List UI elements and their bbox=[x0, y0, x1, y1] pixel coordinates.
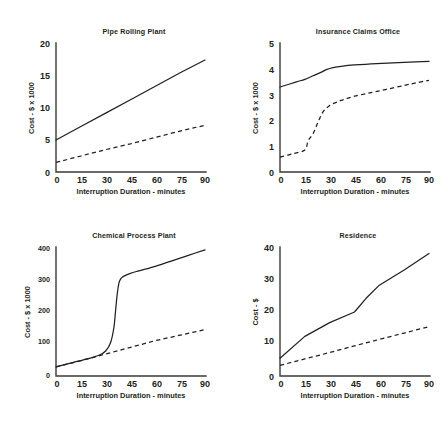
y-tick-labels: 20 15 10 5 0 bbox=[40, 39, 50, 178]
x-tick-label: 60 bbox=[376, 175, 386, 185]
y-tick-labels: 40 30 20 10 0 bbox=[264, 243, 274, 382]
x-tick-label: 0 bbox=[278, 379, 283, 389]
y-tick-label: 20 bbox=[40, 39, 50, 49]
y-tick-label: 5 bbox=[269, 39, 274, 49]
x-tick-labels: 0 15 30 45 60 75 90 bbox=[54, 379, 210, 389]
axis-lines bbox=[56, 43, 206, 172]
chart-title: Pipe Rolling Plant bbox=[102, 28, 165, 36]
x-tick-label: 90 bbox=[200, 175, 210, 185]
y-axis-title: Cost - $ x 1000 bbox=[251, 82, 260, 134]
plot-area: 20 15 10 5 0 0 15 30 45 60 75 90 Interru… bbox=[27, 39, 210, 196]
four-panel-line-chart-figure: Pipe Rolling Plant 20 15 10 5 0 0 15 30 … bbox=[0, 0, 448, 424]
y-axis-title: Cost - $ x 1000 bbox=[27, 82, 36, 134]
y-tick-label: 15 bbox=[40, 71, 50, 81]
x-tick-label: 45 bbox=[127, 175, 137, 185]
y-tick-label: 0 bbox=[45, 168, 50, 178]
x-tick-label: 75 bbox=[401, 379, 411, 389]
x-tick-labels: 0 15 30 45 60 75 90 bbox=[278, 379, 434, 389]
x-tick-label: 60 bbox=[376, 379, 386, 389]
x-tick-label: 60 bbox=[152, 379, 162, 389]
x-axis-title: Interruption Duration - minutes bbox=[77, 391, 186, 400]
y-tick-label: 20 bbox=[264, 305, 274, 315]
y-tick-label: 200 bbox=[38, 306, 50, 315]
series-dashed-line bbox=[280, 327, 429, 366]
x-tick-label: 75 bbox=[177, 175, 187, 185]
series-solid-line bbox=[280, 253, 429, 358]
y-tick-label: 10 bbox=[40, 103, 50, 113]
x-tick-label: 30 bbox=[102, 175, 112, 185]
chart-title: Insurance Claims Office bbox=[316, 28, 400, 36]
y-tick-label: 30 bbox=[264, 274, 274, 284]
series-solid-line bbox=[56, 60, 205, 140]
y-tick-label: 3 bbox=[269, 91, 274, 101]
y-axis-title: Cost - $ bbox=[251, 298, 260, 325]
plot-area: 400 300 200 100 0 0 15 30 45 60 75 90 In… bbox=[23, 244, 210, 400]
y-tick-label: 0 bbox=[46, 371, 50, 380]
x-tick-label: 60 bbox=[152, 175, 162, 185]
chart-panel-pipe-rolling-plant: Pipe Rolling Plant 20 15 10 5 0 0 15 30 … bbox=[0, 0, 224, 212]
x-axis-title: Interruption Duration - minutes bbox=[77, 187, 186, 196]
y-tick-labels: 5 4 3 2 1 0 bbox=[269, 39, 274, 178]
plot-area: 5 4 3 2 1 0 0 15 30 45 60 75 90 Interrup… bbox=[251, 39, 434, 196]
x-tick-label: 90 bbox=[424, 175, 434, 185]
chart-panel-chemical-process-plant: Chemical Process Plant 400 300 200 100 0… bbox=[0, 212, 224, 424]
x-tick-label: 45 bbox=[351, 379, 361, 389]
series-solid-line bbox=[280, 61, 429, 87]
x-tick-label: 0 bbox=[278, 175, 283, 185]
y-tick-label: 5 bbox=[45, 135, 50, 145]
y-tick-label: 4 bbox=[269, 65, 274, 75]
chart-svg-insurance-claims-office: Insurance Claims Office 5 4 3 2 1 0 0 15… bbox=[224, 0, 448, 212]
x-tick-label: 75 bbox=[177, 379, 187, 389]
axis-lines bbox=[56, 247, 206, 376]
x-tick-label: 15 bbox=[301, 175, 311, 185]
y-tick-label: 10 bbox=[264, 336, 274, 346]
x-axis-title: Interruption Duration - minutes bbox=[301, 391, 410, 400]
x-tick-label: 90 bbox=[424, 379, 434, 389]
chart-panel-insurance-claims-office: Insurance Claims Office 5 4 3 2 1 0 0 15… bbox=[224, 0, 448, 212]
series-dashed-line bbox=[56, 125, 205, 162]
x-tick-label: 75 bbox=[401, 175, 411, 185]
y-tick-label: 2 bbox=[269, 116, 274, 126]
y-tick-label: 300 bbox=[38, 275, 50, 284]
x-tick-label: 0 bbox=[54, 175, 59, 185]
x-tick-labels: 0 15 30 45 60 75 90 bbox=[54, 175, 210, 185]
x-tick-label: 15 bbox=[301, 379, 311, 389]
series-dashed-line bbox=[56, 330, 205, 367]
chart-svg-residence: Residence 40 30 20 10 0 0 15 30 45 60 75 bbox=[224, 212, 448, 424]
x-tick-label: 30 bbox=[326, 379, 336, 389]
x-tick-label: 0 bbox=[54, 379, 59, 389]
y-tick-label: 0 bbox=[269, 372, 274, 382]
x-tick-label: 45 bbox=[127, 379, 137, 389]
y-tick-label: 1 bbox=[269, 142, 274, 152]
x-tick-label: 30 bbox=[326, 175, 336, 185]
y-tick-label: 400 bbox=[38, 244, 50, 253]
y-tick-label: 100 bbox=[38, 337, 50, 346]
chart-title: Residence bbox=[340, 232, 377, 240]
y-tick-label: 0 bbox=[269, 168, 274, 178]
chart-svg-chemical-process-plant: Chemical Process Plant 400 300 200 100 0… bbox=[0, 212, 224, 424]
series-dashed-line bbox=[280, 80, 429, 157]
x-tick-label: 15 bbox=[77, 175, 87, 185]
x-tick-label: 15 bbox=[77, 379, 87, 389]
x-tick-label: 90 bbox=[200, 379, 210, 389]
x-tick-label: 30 bbox=[102, 379, 112, 389]
chart-svg-pipe-rolling-plant: Pipe Rolling Plant 20 15 10 5 0 0 15 30 … bbox=[0, 0, 224, 212]
x-tick-label: 45 bbox=[351, 175, 361, 185]
y-tick-labels: 400 300 200 100 0 bbox=[38, 244, 50, 380]
y-tick-label: 40 bbox=[264, 243, 274, 253]
x-axis-title: Interruption Duration - minutes bbox=[301, 187, 410, 196]
chart-title: Chemical Process Plant bbox=[92, 232, 176, 240]
y-axis-title: Cost - $ x 1000 bbox=[23, 286, 32, 338]
chart-panel-residence: Residence 40 30 20 10 0 0 15 30 45 60 75 bbox=[224, 212, 448, 424]
series-solid-line bbox=[56, 250, 205, 367]
x-tick-labels: 0 15 30 45 60 75 90 bbox=[278, 175, 434, 185]
plot-area: 40 30 20 10 0 0 15 30 45 60 75 90 Interr… bbox=[251, 243, 434, 400]
